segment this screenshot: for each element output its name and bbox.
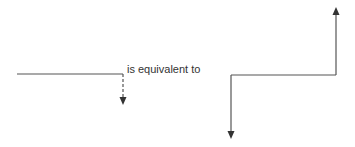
equivalence-diagram: is equivalent to [0, 0, 355, 147]
dashed-arrow-head-icon [120, 97, 127, 105]
up-arrow-head-icon [333, 7, 340, 15]
down-arrow-head-icon [228, 131, 235, 139]
equivalence-label: is equivalent to [127, 63, 200, 75]
